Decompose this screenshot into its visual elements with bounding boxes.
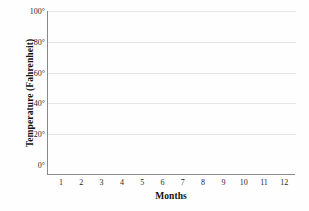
x-tick-label-7: 7 [174,177,192,188]
x-tick-label-11: 11 [255,177,273,188]
y-tick-label-80: 80° [1,38,45,47]
y-tick-label-20: 20° [1,130,45,139]
y-tick-label-100: 100° [1,7,45,16]
gridline-80 [48,42,296,43]
y-tick-label-60: 60° [1,69,45,78]
temperature-chart: Temperature (Fahrenheit) 100° 80° 60° 40… [0,0,309,211]
x-tick-label-3: 3 [93,177,111,188]
x-tick-label-8: 8 [194,177,212,188]
x-axis-tick-labels: 1 2 3 4 5 6 7 8 9 10 11 12 [47,177,295,189]
y-axis-tick-labels: 100° 80° 60° 40° 20° 0° [0,11,45,175]
y-tick-label-0: 0° [1,161,45,170]
gridline-60 [48,73,296,74]
gridline-20 [48,134,296,135]
y-tick-label-40: 40° [1,99,45,108]
x-tick-label-4: 4 [113,177,131,188]
x-tick-label-1: 1 [52,177,70,188]
x-tick-label-2: 2 [72,177,90,188]
gridline-40 [48,103,296,104]
x-axis-title: Months [47,190,295,202]
x-tick-label-5: 5 [133,177,151,188]
x-tick-label-10: 10 [235,177,253,188]
x-tick-label-6: 6 [154,177,172,188]
plot-area [47,11,295,175]
x-tick-label-9: 9 [214,177,232,188]
x-tick-label-12: 12 [275,177,293,188]
gridline-100 [48,11,296,12]
